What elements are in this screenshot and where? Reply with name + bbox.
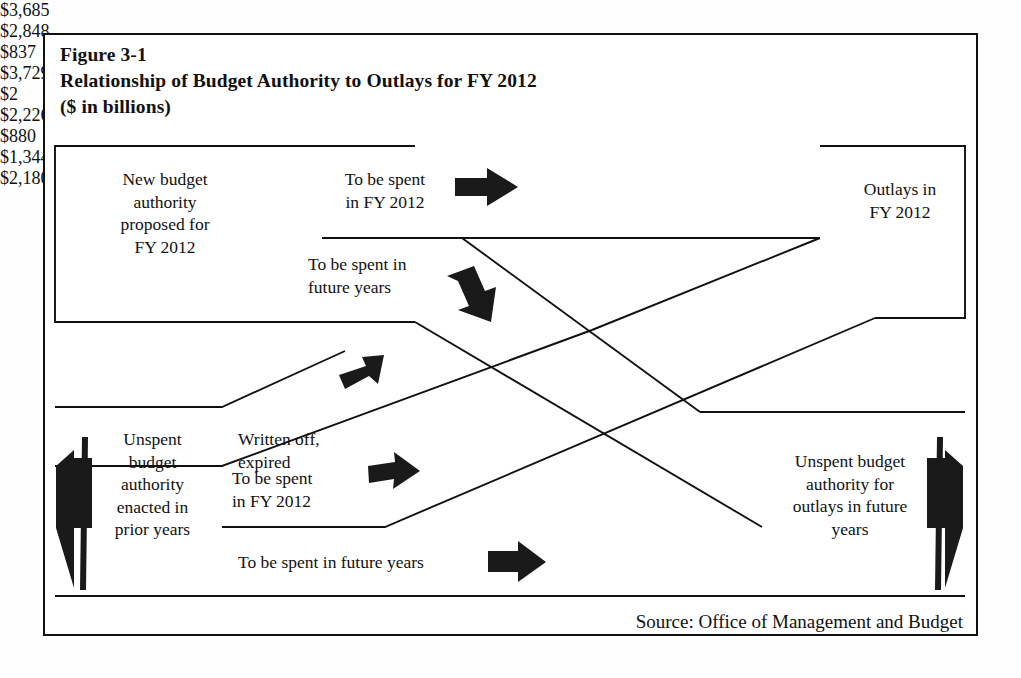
flow-text-written-off: Written off,expired bbox=[238, 429, 320, 472]
figure-container: Figure 3-1 Relationship of Budget Author… bbox=[0, 0, 1021, 678]
flow-text-new-to-future: To be spent infuture years bbox=[308, 254, 406, 297]
flow-text-new-to-outlays: To be spentin FY 2012 bbox=[345, 169, 425, 212]
figure-title-block: Figure 3-1 Relationship of Budget Author… bbox=[60, 42, 537, 120]
node-text-new-budget-authority: New budgetauthorityproposed forFY 2012 bbox=[121, 169, 210, 257]
source-attribution: Source: Office of Management and Budget bbox=[636, 611, 963, 633]
figure-number: Figure 3-1 bbox=[60, 42, 537, 68]
flow-label-new-to-outlays: To be spentin FY 2012 bbox=[300, 168, 470, 213]
flow-label-prior-to-future: To be spent in future years bbox=[238, 551, 468, 574]
node-label-unspent-future: Unspent budgetauthority foroutlays in fu… bbox=[760, 450, 940, 540]
node-label-new-budget-authority: New budgetauthorityproposed forFY 2012 bbox=[60, 168, 270, 258]
flow-label-prior-to-outlays: To be spentin FY 2012 bbox=[232, 467, 382, 512]
node-label-unspent-prior: Unspentbudgetauthorityenacted inprior ye… bbox=[90, 428, 215, 541]
flow-text-prior-to-outlays: To be spentin FY 2012 bbox=[232, 468, 312, 511]
node-label-outlays: Outlays inFY 2012 bbox=[830, 178, 970, 223]
flow-label-new-to-future: To be spent infuture years bbox=[308, 253, 488, 298]
node-text-unspent-prior: Unspentbudgetauthorityenacted inprior ye… bbox=[115, 429, 190, 539]
flow-text-prior-to-future: To be spent in future years bbox=[238, 552, 424, 572]
node-text-unspent-future: Unspent budgetauthority foroutlays in fu… bbox=[793, 451, 908, 539]
figure-title: Relationship of Budget Authority to Outl… bbox=[60, 68, 537, 94]
node-amount-new-budget-authority: $3,685 bbox=[0, 0, 1021, 21]
figure-outer-border bbox=[43, 33, 978, 636]
node-text-outlays: Outlays inFY 2012 bbox=[864, 179, 936, 222]
figure-units: ($ in billions) bbox=[60, 94, 537, 120]
